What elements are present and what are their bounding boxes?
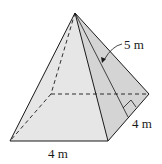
slant-height-label: 5 m: [124, 38, 144, 51]
base-depth-label: 4 m: [132, 117, 152, 130]
pyramid-diagram: 5 m 4 m 4 m: [0, 0, 162, 164]
base-width-label: 4 m: [48, 147, 68, 160]
pyramid-drawing: [0, 0, 162, 164]
